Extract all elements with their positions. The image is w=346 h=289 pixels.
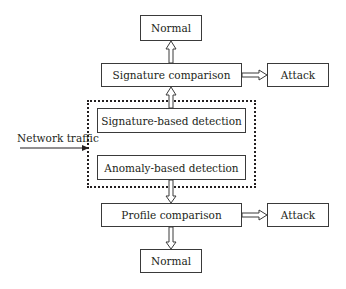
arrow-right-to-attack-top-icon — [242, 70, 267, 80]
arrow-right-to-attack-bottom-icon — [242, 210, 267, 220]
arrow-up-to-signature-comparison-icon — [166, 87, 176, 108]
arrows-layer — [0, 0, 346, 289]
arrow-network-traffic-icon — [20, 145, 89, 151]
arrow-down-to-normal-bottom-icon — [166, 227, 176, 249]
arrow-up-to-normal-icon — [166, 41, 176, 63]
arrow-down-to-profile-comparison-icon — [166, 180, 176, 203]
